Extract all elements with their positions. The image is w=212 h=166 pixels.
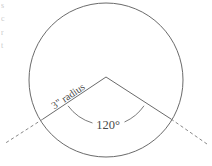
radius-label: 3" radius	[49, 81, 87, 111]
geometry-figure: 120° 3" radius s c r t	[0, 0, 212, 166]
geometry-diagram-canvas: 120° 3" radius	[0, 0, 212, 166]
circle-outline	[29, 3, 183, 157]
angle-arc-left-segment	[68, 106, 93, 123]
angle-arc-right-segment	[125, 106, 145, 122]
right-dashed-extension	[171, 119, 207, 144]
angle-label: 120°	[96, 118, 120, 132]
left-dashed-extension	[4, 119, 43, 144]
